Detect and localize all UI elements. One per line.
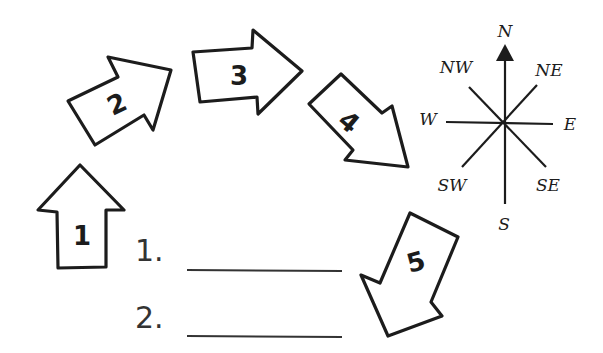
arrow-4: 4 (309, 74, 408, 167)
compass-label-e: E (563, 114, 577, 134)
direction-worksheet: 1 2 3 4 5 N NW NE W E SW SE S 1. (0, 0, 603, 353)
compass-label-nw: NW (439, 57, 474, 77)
compass-nesw-line (462, 85, 537, 167)
question-1-label: 1. (135, 233, 164, 268)
question-2: 2. (135, 300, 342, 337)
compass-north-arrowhead-icon (496, 44, 514, 61)
compass-label-n: N (497, 21, 514, 41)
compass-label-sw: SW (437, 175, 468, 195)
compass-rose: N NW NE W E SW SE S (419, 21, 577, 234)
compass-ew-line (446, 122, 553, 124)
answer-2-blank[interactable] (187, 336, 342, 337)
arrow-3-number: 3 (230, 61, 248, 91)
arrow-1-shape (38, 165, 124, 268)
compass-label-se: SE (536, 175, 561, 195)
compass-label-w: W (419, 109, 438, 129)
arrow-1-number: 1 (73, 221, 91, 251)
question-2-label: 2. (135, 300, 164, 335)
compass-nwse-line (469, 87, 546, 167)
compass-label-s: S (498, 214, 510, 234)
arrow-3: 3 (193, 30, 302, 114)
compass-label-ne: NE (534, 60, 563, 80)
arrow-1: 1 (38, 165, 124, 268)
question-1: 1. (135, 233, 342, 271)
arrow-2: 2 (68, 57, 171, 145)
answer-1-blank[interactable] (187, 270, 342, 271)
arrow-5: 5 (361, 213, 458, 336)
